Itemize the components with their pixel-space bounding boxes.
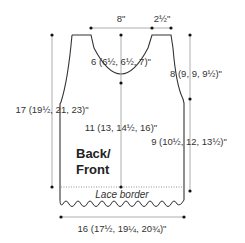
lace-border-label: Lace border: [95, 189, 149, 200]
schematic-diagram: 8" 2½" 6 (6½, 6½, 7)" 8 (9, 9, 9½)" 17 (…: [0, 0, 245, 243]
dot: [59, 215, 62, 218]
dot: [182, 215, 185, 218]
piece-label-line1: Back/: [76, 146, 111, 161]
dot: [119, 81, 122, 84]
dot: [89, 26, 92, 29]
width-label: 16 (17½, 19¼, 20¾)": [78, 223, 167, 234]
dot: [50, 33, 53, 36]
center-length-label: 11 (13, 14½, 16)": [85, 122, 157, 133]
dot: [50, 185, 53, 188]
lace-scallop-edge: [60, 200, 184, 207]
dot: [188, 97, 191, 100]
side-length-label: 9 (10½, 12, 13½)": [151, 136, 227, 147]
neck-depth-label: 6 (6½, 6½, 7)": [91, 56, 151, 67]
shoulder-width-label: 2½": [154, 13, 171, 24]
total-length-label: 17 (19½, 21, 23)": [15, 104, 88, 115]
dot: [188, 189, 191, 192]
armhole-depth-label: 8 (9, 9, 9½)": [170, 68, 222, 79]
neck-width-label: 8": [117, 13, 126, 24]
dot: [188, 33, 191, 36]
dot: [150, 26, 153, 29]
piece-label-line2: Front: [76, 162, 110, 177]
dot: [169, 26, 172, 29]
dot: [119, 33, 122, 36]
